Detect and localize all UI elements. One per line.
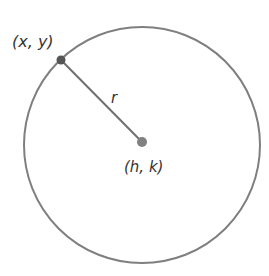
radius-label: r bbox=[111, 89, 117, 107]
radius-line bbox=[61, 60, 142, 142]
circle-diagram: (x, y) r (h, k) bbox=[0, 0, 269, 276]
center-point bbox=[137, 137, 147, 147]
point-label: (x, y) bbox=[12, 32, 54, 51]
center-label: (h, k) bbox=[124, 158, 163, 176]
point-on-circle bbox=[57, 56, 66, 65]
